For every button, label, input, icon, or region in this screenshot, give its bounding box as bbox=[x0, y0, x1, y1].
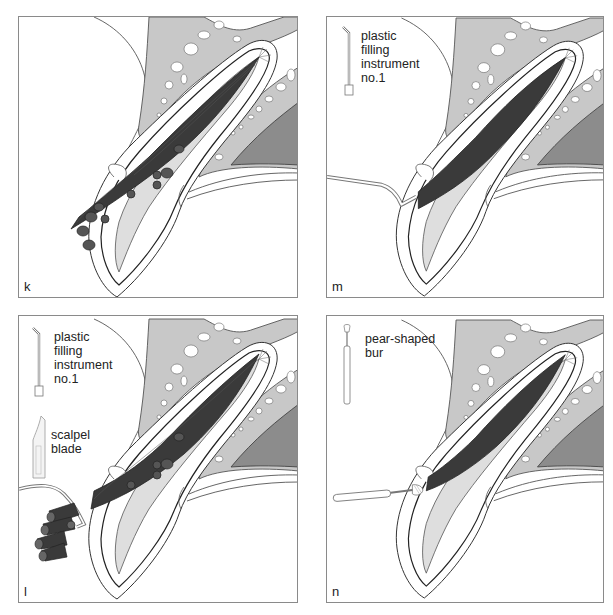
panel-k: k bbox=[18, 16, 298, 298]
panel-letter-l: l bbox=[24, 585, 27, 598]
panel-n: pear-shaped bur n bbox=[326, 315, 604, 603]
panel-letter-n: n bbox=[332, 585, 339, 598]
panel-l: plastic filling instrument no.1 scalpel … bbox=[18, 315, 298, 603]
panel-m: plastic filling instrument no.1 m bbox=[326, 16, 604, 298]
panel-letter-m: m bbox=[332, 280, 343, 293]
pear-shaped-bur-icon bbox=[341, 324, 353, 408]
plastic-filling-instrument-icon bbox=[29, 324, 47, 404]
plastic-filling-instrument-icon bbox=[339, 23, 357, 103]
instrument-label-plastic-filling: plastic filling instrument no.1 bbox=[54, 330, 112, 386]
instrument-label-plastic-filling: plastic filling instrument no.1 bbox=[361, 29, 419, 85]
tooth-anatomy-illustration bbox=[19, 17, 298, 298]
instrument-label-scalpel-blade: scalpel blade bbox=[51, 428, 90, 456]
scalpel-blade-icon bbox=[29, 414, 49, 482]
instrument-label-pear-shaped-bur: pear-shaped bur bbox=[365, 332, 435, 360]
panel-letter-k: k bbox=[24, 280, 31, 293]
